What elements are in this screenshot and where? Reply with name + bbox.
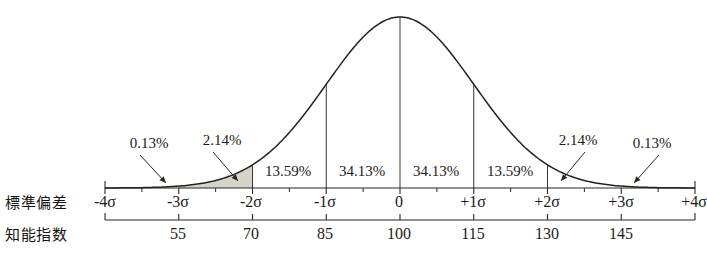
sigma-tick-minus3: -3σ xyxy=(167,193,189,210)
iq-tick-145: 145 xyxy=(609,225,633,242)
sigma-tick-minus1: -1σ xyxy=(314,193,336,210)
tail-label-plus2-plus3: 2.14% xyxy=(559,132,598,148)
iq-axis xyxy=(105,213,695,220)
sigma-tick-minus4: -4σ xyxy=(94,193,116,210)
sigma-tick-zero: 0 xyxy=(395,193,403,210)
sigma-tick-plus4: +4σ xyxy=(681,193,707,210)
iq-tick-85: 85 xyxy=(317,225,333,242)
sigma-tick-labels: -4σ -3σ -2σ -1σ 0 +1σ +2σ +3σ +4σ xyxy=(94,193,707,210)
band-percentage-labels: 13.59% 34.13% 34.13% 13.59% xyxy=(265,163,533,179)
iq-tick-55: 55 xyxy=(170,225,186,242)
sigma-tick-plus3: +3σ xyxy=(608,193,634,210)
iq-tick-100: 100 xyxy=(387,225,411,242)
iq-tick-130: 130 xyxy=(535,225,559,242)
sigma-tick-plus2: +2σ xyxy=(534,193,560,210)
tail-label-plus3-plus4: 0.13% xyxy=(633,135,672,151)
iq-tick-70: 70 xyxy=(243,225,259,242)
tail-label-minus4-minus3: 0.13% xyxy=(130,135,169,151)
tail-label-minus3-minus2: 2.14% xyxy=(203,132,242,148)
band-label-zero-plus1: 34.13% xyxy=(413,163,459,179)
sigma-tick-plus1: +1σ xyxy=(460,193,486,210)
iq-tick-115: 115 xyxy=(461,225,484,242)
band-label-minus1-zero: 34.13% xyxy=(339,163,385,179)
band-label-plus1-plus2: 13.59% xyxy=(487,163,533,179)
iq-tick-labels: 55 70 85 100 115 130 145 xyxy=(170,225,633,242)
normal-distribution-chart: -4σ -3σ -2σ -1σ 0 +1σ +2σ +3σ +4σ 55 70 … xyxy=(0,0,707,261)
sigma-tick-minus2: -2σ xyxy=(240,193,262,210)
band-label-minus2-minus1: 13.59% xyxy=(265,163,311,179)
